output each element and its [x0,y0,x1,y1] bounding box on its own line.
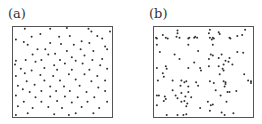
data-point [179,58,181,60]
data-point [180,79,182,81]
data-point [172,79,174,81]
data-point [225,81,227,83]
data-point [104,90,106,92]
data-point [157,79,159,81]
data-point [53,64,55,66]
data-point [49,28,51,30]
data-point [236,51,238,53]
data-point [104,79,106,81]
data-point [232,112,234,114]
data-point [49,95,51,97]
data-point [49,86,51,88]
data-point [106,68,108,70]
data-point [212,44,214,46]
data-point [165,65,167,67]
data-point [73,44,75,46]
data-point [59,59,61,61]
data-point [229,91,231,93]
data-point [75,60,77,62]
data-point [197,85,199,87]
data-point [24,72,26,74]
data-point [210,104,212,106]
data-point [71,69,73,71]
data-point [55,90,57,92]
data-point [158,95,160,97]
data-point [109,30,111,32]
data-point [37,48,39,50]
data-point [208,65,210,67]
data-point [79,85,81,87]
data-point [63,86,65,88]
data-point [34,84,36,86]
data-point [90,80,92,82]
data-point [187,44,189,46]
data-point [182,114,184,116]
data-point [218,31,220,33]
data-point [220,95,222,97]
data-point [185,80,187,82]
data-point [187,67,189,69]
data-point [221,111,223,113]
data-point [166,114,168,116]
data-point [199,107,201,109]
data-point [184,95,186,97]
data-point [194,36,196,38]
data-point [218,57,220,59]
data-point [47,54,49,56]
data-point [49,42,51,44]
plot-frame [154,27,254,118]
data-point [199,67,201,69]
data-point [224,86,226,88]
data-point [177,30,179,32]
data-point [221,54,223,56]
data-point [104,46,106,48]
data-point [175,95,177,97]
data-point [98,107,100,109]
data-point [87,101,89,103]
data-point [52,75,54,77]
data-point [177,32,179,34]
data-point [193,62,195,64]
data-point [15,114,17,116]
data-point [250,82,252,84]
data-point [96,75,98,77]
data-point [177,114,179,116]
data-point [156,44,158,46]
data-point [241,34,243,36]
data-point [187,91,189,93]
data-point [226,101,228,103]
data-point [183,81,185,83]
data-point [156,67,158,69]
data-point [27,44,29,46]
data-point [185,113,187,115]
data-point [66,27,68,29]
data-point [211,39,213,41]
data-point [180,101,182,103]
data-point [66,50,68,52]
scatter-plots [0,0,262,124]
data-point [228,61,230,63]
data-point [247,79,249,81]
data-point [61,107,63,109]
data-point [56,100,58,102]
data-point [44,48,46,50]
data-point [69,35,71,37]
data-point [188,37,190,39]
data-point [59,79,61,81]
data-point [15,95,17,97]
data-point [210,54,212,56]
data-point [80,48,82,50]
data-point [60,43,62,45]
data-point [176,36,178,38]
data-point [195,81,197,83]
data-point [186,103,188,105]
data-point [106,101,108,103]
data-point [185,105,187,107]
data-point [162,72,164,74]
data-point [90,30,92,32]
data-point [81,106,83,108]
data-point [40,101,42,103]
data-point [208,58,210,60]
data-point [242,52,244,54]
data-point [106,48,108,50]
